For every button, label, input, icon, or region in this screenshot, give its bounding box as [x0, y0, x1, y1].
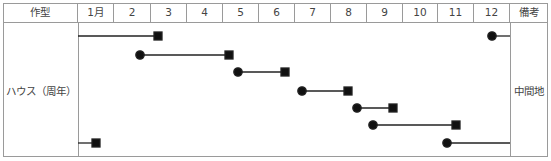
- cycle-3-bar: [234, 68, 289, 76]
- harvest-square-icon: [281, 68, 289, 76]
- sowing-circle-icon: [234, 68, 242, 76]
- sowing-circle-icon: [443, 139, 451, 147]
- sowing-circle-icon: [369, 121, 377, 129]
- harvest-square-icon: [92, 139, 100, 147]
- cycle-4-bar: [298, 87, 352, 95]
- harvest-square-icon: [344, 87, 352, 95]
- cycle-2-bar: [136, 51, 233, 59]
- sowing-circle-icon: [353, 104, 361, 112]
- harvest-square-icon: [154, 32, 162, 40]
- harvest-square-icon: [452, 121, 460, 129]
- harvest-square-icon: [225, 51, 233, 59]
- schedule-plot: [0, 0, 551, 161]
- sowing-circle-icon: [488, 32, 496, 40]
- cycle-7-bar: [78, 139, 510, 147]
- harvest-square-icon: [389, 104, 397, 112]
- cycle-6-bar: [369, 121, 460, 129]
- sowing-circle-icon: [298, 87, 306, 95]
- cycle-5-bar: [353, 104, 397, 112]
- cycle-1-bar: [78, 32, 510, 40]
- sowing-circle-icon: [136, 51, 144, 59]
